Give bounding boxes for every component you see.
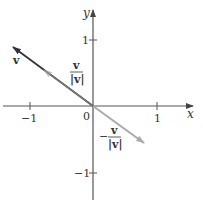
vector-v-label: v bbox=[12, 54, 20, 67]
vector-unit-v bbox=[44, 70, 93, 106]
y-axis-label: y bbox=[82, 6, 90, 20]
x-tick-label-neg1: −1 bbox=[21, 112, 37, 125]
neg-unit-v-label-denominator: |v| bbox=[108, 138, 122, 151]
x-tick-label-1: 1 bbox=[154, 112, 161, 125]
vector-diagram: y x 0 −1 1 1 −1 v v |v| − v |v| bbox=[0, 0, 203, 202]
neg-unit-v-label-numerator: v bbox=[110, 124, 118, 137]
unit-v-label-numerator: v bbox=[72, 59, 80, 72]
neg-unit-v-label: − v |v| bbox=[99, 124, 122, 151]
neg-unit-v-label-sign: − bbox=[99, 130, 108, 143]
y-tick-label-1: 1 bbox=[82, 34, 89, 47]
x-axis-label: x bbox=[187, 107, 194, 121]
y-tick-label-neg1: −1 bbox=[74, 167, 90, 180]
unit-v-label: v |v| bbox=[70, 59, 84, 86]
origin-label: 0 bbox=[83, 110, 90, 123]
unit-v-label-denominator: |v| bbox=[70, 73, 84, 86]
